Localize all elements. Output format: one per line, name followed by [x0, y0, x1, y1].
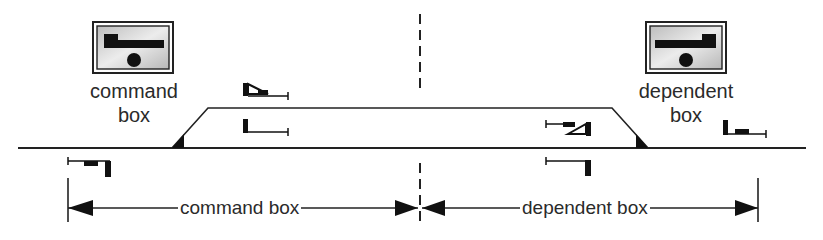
signal-icon-siding-right-upper: [546, 120, 591, 136]
arrow-left-icon: [422, 200, 445, 216]
dependent-area-dimension-label: dependent box: [520, 198, 650, 218]
dependent-box-label-line2: box: [630, 104, 742, 126]
dependent-box-panel-icon: [646, 22, 726, 73]
signal-icon-siding-left-upper: [243, 83, 288, 100]
command-box-label-line2: box: [84, 104, 184, 126]
signal-icon-siding-left-lower: [243, 119, 288, 136]
signal-icon-main-right-lower: [546, 157, 591, 176]
command-box-label: command box: [84, 80, 184, 126]
arrow-left-icon: [68, 200, 93, 216]
arrow-right-icon: [395, 200, 418, 216]
command-box-label-line1: command: [84, 80, 184, 102]
signal-icon-main-far-left: [68, 157, 111, 177]
arrow-right-icon: [735, 200, 758, 216]
dependent-box-label: dependent box: [630, 80, 742, 126]
dependent-box-label-line1: dependent: [630, 80, 742, 102]
command-area-dimension-label: command box: [178, 198, 301, 218]
command-box-panel-icon: [93, 22, 173, 73]
